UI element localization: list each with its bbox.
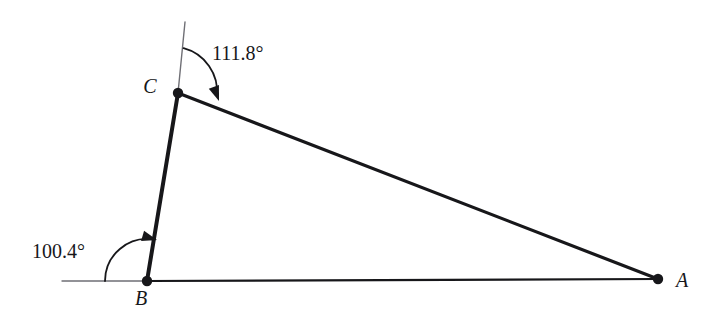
vertex-dot-c — [173, 88, 183, 98]
vertex-label-c: C — [143, 75, 157, 97]
geometry-diagram: 111.8° 100.4° A B C — [0, 0, 710, 328]
vertex-dot-a — [653, 274, 663, 284]
angle-label-at-b: 100.4° — [32, 240, 85, 262]
vertex-dot-b — [142, 276, 152, 286]
vertex-label-a: A — [674, 269, 689, 291]
diagram-canvas: 111.8° 100.4° A B C — [0, 0, 710, 328]
vertex-label-b: B — [135, 287, 147, 309]
angle-label-at-c: 111.8° — [212, 42, 264, 64]
